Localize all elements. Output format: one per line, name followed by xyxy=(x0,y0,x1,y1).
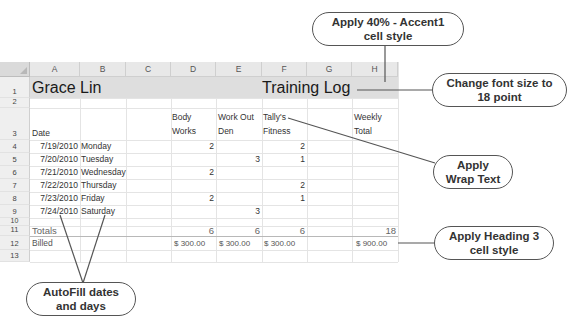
callout-accent-style: Apply 40% - Accent1 cell style xyxy=(312,12,464,46)
callout-text: Change font size to xyxy=(446,76,552,90)
callout-text: cell style xyxy=(470,243,519,257)
callout-text: cell style xyxy=(364,29,413,43)
callout-autofill: AutoFill dates and days xyxy=(26,282,136,316)
callout-font-size: Change font size to 18 point xyxy=(432,73,567,107)
callout-text: Wrap Text xyxy=(446,172,501,186)
callout-text: AutoFill dates xyxy=(43,285,119,299)
callout-text: and days xyxy=(56,299,106,313)
callout-text: Apply Heading 3 xyxy=(449,229,539,243)
callout-text: Apply xyxy=(457,158,489,172)
callout-wrap-text: Apply Wrap Text xyxy=(433,155,513,189)
callout-text: Apply 40% - Accent1 xyxy=(332,15,445,29)
callout-text: 18 point xyxy=(477,90,521,104)
callout-heading3: Apply Heading 3 cell style xyxy=(434,226,554,260)
